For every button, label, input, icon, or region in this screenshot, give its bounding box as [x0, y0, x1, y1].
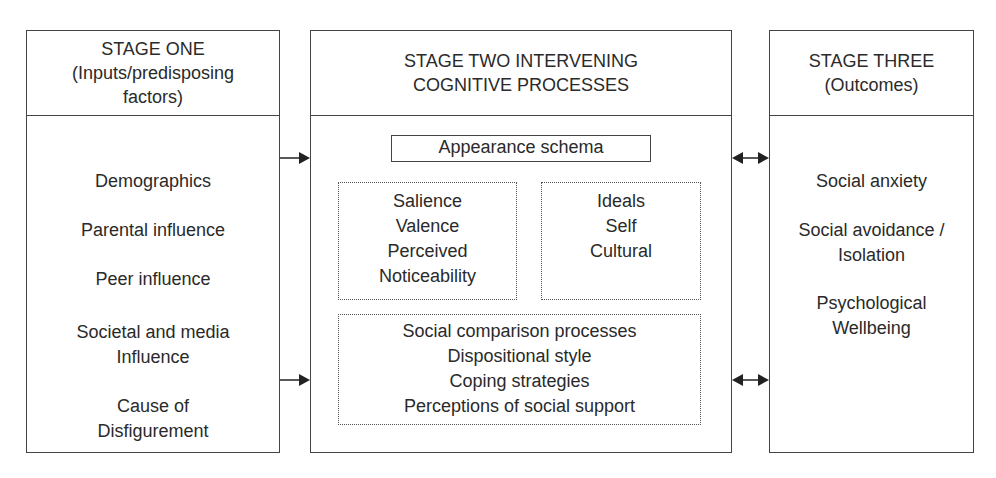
- connector-layer: [0, 0, 996, 478]
- double-arrow-stage-two-three-bottom: [732, 374, 769, 386]
- arrow-stage-one-to-two-top: [280, 152, 310, 164]
- double-arrow-stage-two-three-top: [732, 152, 769, 164]
- arrow-stage-one-to-two-bottom: [280, 374, 310, 386]
